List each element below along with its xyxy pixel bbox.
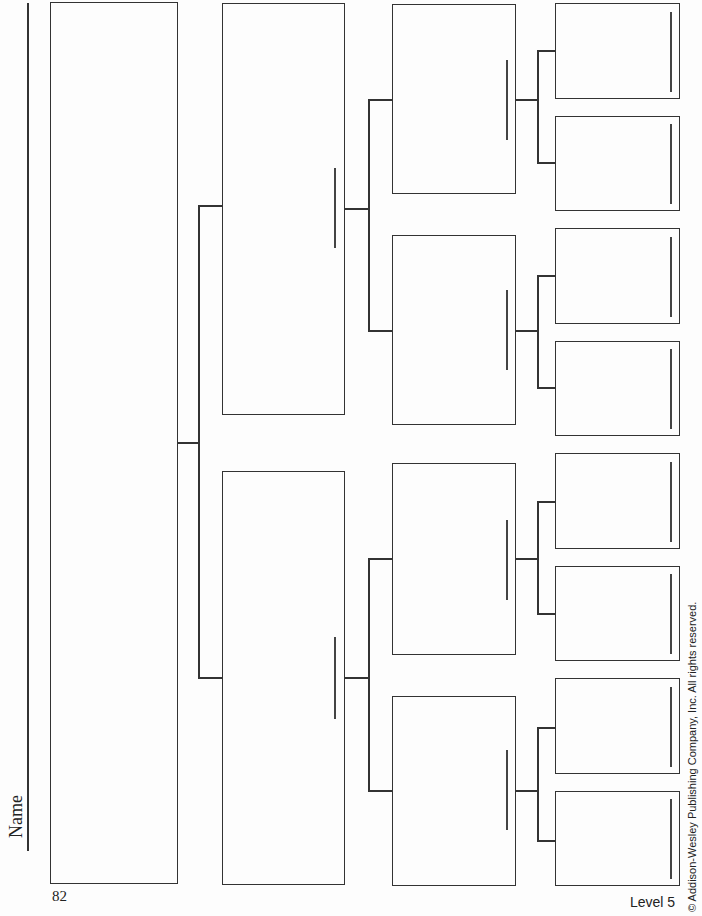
connector <box>537 727 539 841</box>
connector <box>537 727 555 729</box>
answer-line <box>670 687 672 767</box>
connector <box>368 558 392 560</box>
answer-line <box>670 462 672 542</box>
name-label: Name <box>6 795 27 838</box>
page-number: 82 <box>52 888 67 905</box>
connector <box>345 208 369 210</box>
answer-line <box>334 637 336 719</box>
connector <box>345 677 369 679</box>
answer-line <box>670 237 672 317</box>
connector <box>368 99 392 101</box>
answer-line <box>670 349 672 429</box>
tree-box-level3-1[interactable] <box>392 4 516 194</box>
connector <box>537 501 555 503</box>
tree-box-level2-top[interactable] <box>222 3 345 415</box>
connector <box>537 275 555 277</box>
answer-line <box>670 574 672 654</box>
answer-line <box>506 290 508 370</box>
tree-box-level4-8[interactable] <box>555 791 680 886</box>
connector <box>537 613 555 615</box>
connector <box>198 677 222 679</box>
answer-line <box>334 168 336 248</box>
connector <box>198 205 222 207</box>
connector <box>516 558 538 560</box>
tree-box-level3-3[interactable] <box>392 463 516 655</box>
answer-line <box>506 60 508 140</box>
tree-box-level4-2[interactable] <box>555 116 680 211</box>
tree-box-level4-6[interactable] <box>555 566 680 661</box>
connector <box>198 205 200 678</box>
answer-line <box>506 750 508 830</box>
answer-line <box>670 12 672 92</box>
answer-line <box>670 124 672 204</box>
tree-box-level4-4[interactable] <box>555 341 680 436</box>
tree-box-level3-2[interactable] <box>392 235 516 425</box>
name-write-line[interactable] <box>27 3 29 851</box>
tree-box-level4-3[interactable] <box>555 228 680 324</box>
connector <box>368 330 392 332</box>
copyright-notice: © Addison-Wesley Publishing Company, Inc… <box>686 512 698 912</box>
answer-line <box>506 520 508 600</box>
level-label: Level 5 <box>630 894 675 910</box>
connector <box>537 50 555 52</box>
tree-box-level2-bottom[interactable] <box>222 471 345 885</box>
connector <box>537 387 555 389</box>
connector <box>537 840 555 842</box>
connector <box>368 790 392 792</box>
connector <box>537 162 555 164</box>
connector <box>537 50 539 163</box>
connector <box>516 99 538 101</box>
tree-box-level3-4[interactable] <box>392 696 516 886</box>
tree-box-level4-7[interactable] <box>555 678 680 774</box>
tree-box-level1[interactable] <box>50 2 178 884</box>
connector <box>368 99 370 331</box>
answer-line <box>670 799 672 879</box>
connector <box>516 330 538 332</box>
connector <box>537 275 539 388</box>
connector <box>516 790 538 792</box>
connector <box>537 501 539 614</box>
tree-box-level4-1[interactable] <box>555 3 680 99</box>
tree-box-level4-5[interactable] <box>555 453 680 549</box>
connector <box>178 442 199 444</box>
name-label-wrap: Name <box>2 758 32 838</box>
connector <box>368 558 370 791</box>
